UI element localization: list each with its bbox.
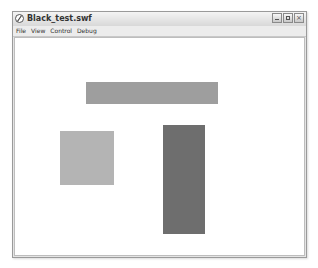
menu-control[interactable]: Control	[50, 26, 72, 36]
flash-stage[interactable]	[14, 37, 305, 256]
menu-file[interactable]: File	[16, 26, 26, 36]
app-window: Black_test.swf × File View Control Debug	[12, 11, 307, 258]
close-button[interactable]: ×	[294, 13, 304, 23]
menu-debug[interactable]: Debug	[77, 26, 97, 36]
vertical-bar	[163, 125, 205, 234]
window-controls: ×	[272, 13, 304, 23]
minimize-button[interactable]	[272, 13, 282, 23]
window-title: Black_test.swf	[27, 13, 92, 24]
title-bar[interactable]: Black_test.swf ×	[13, 12, 306, 26]
maximize-button[interactable]	[283, 13, 293, 23]
horizontal-bar	[86, 82, 218, 104]
menu-bar: File View Control Debug	[13, 26, 306, 37]
square	[60, 131, 114, 185]
menu-view[interactable]: View	[31, 26, 45, 36]
flash-player-icon	[15, 14, 24, 23]
close-icon: ×	[296, 14, 302, 22]
